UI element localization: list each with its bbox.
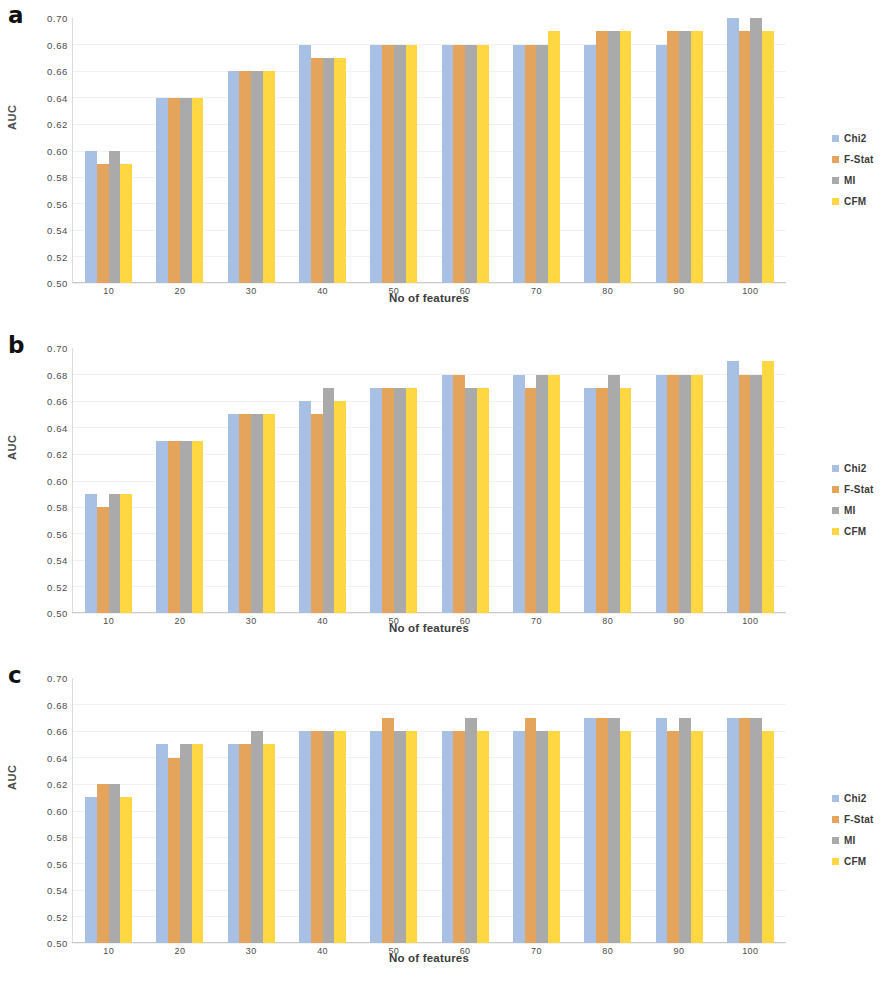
bar-mi — [180, 744, 192, 943]
y-tick-label: 0.64 — [26, 752, 68, 763]
y-tick-label: 0.66 — [26, 396, 68, 407]
bar-cfm — [334, 731, 346, 943]
bar-f-stat — [667, 731, 679, 943]
plot-area-b: AUC 0.700.680.660.640.620.600.580.560.54… — [0, 330, 896, 660]
bar-group — [572, 18, 643, 283]
bar-group — [216, 348, 287, 613]
y-tick-label: 0.70 — [26, 343, 68, 354]
bar-cluster — [584, 348, 631, 613]
bar-cluster — [513, 348, 560, 613]
bar-cluster — [727, 348, 774, 613]
y-tick-labels-b: 0.700.680.660.640.620.600.580.560.540.52… — [26, 348, 68, 613]
bar-chi2 — [584, 718, 596, 943]
legend-a: Chi2F-StatMICFM — [832, 128, 896, 212]
bar-cluster — [299, 678, 346, 943]
bar-chi2 — [228, 71, 240, 283]
legend-item: Chi2 — [832, 128, 896, 149]
bar-cluster — [584, 678, 631, 943]
bar-cfm — [548, 375, 560, 614]
y-tick-label: 0.62 — [26, 779, 68, 790]
y-tick-label: 0.56 — [26, 858, 68, 869]
bar-cluster — [156, 348, 203, 613]
legend-swatch-icon — [832, 135, 839, 142]
chart-panel-c: c AUC 0.700.680.660.640.620.600.580.560.… — [0, 660, 896, 1002]
x-axis-title-c: No of features — [72, 952, 786, 964]
y-tick-label: 0.68 — [26, 39, 68, 50]
bar-mi — [394, 388, 406, 613]
bar-chi2 — [513, 375, 525, 614]
legend-label: Chi2 — [844, 133, 866, 144]
bar-chi2 — [228, 744, 240, 943]
legend-item: MI — [832, 170, 896, 191]
legend-swatch-icon — [832, 816, 839, 823]
bar-group — [572, 678, 643, 943]
gridline — [72, 283, 786, 284]
bar-cluster — [513, 18, 560, 283]
legend-item: Chi2 — [832, 458, 896, 479]
legend-swatch-icon — [832, 507, 839, 514]
bar-f-stat — [596, 718, 608, 943]
bar-cluster — [85, 678, 132, 943]
bar-cfm — [477, 45, 489, 284]
legend-swatch-icon — [832, 465, 839, 472]
legend-swatch-icon — [832, 156, 839, 163]
bar-cluster — [156, 18, 203, 283]
legend-item: CFM — [832, 521, 896, 542]
legend-item: MI — [832, 500, 896, 521]
bar-mi — [394, 45, 406, 284]
y-tick-label: 0.68 — [26, 699, 68, 710]
y-axis-title-c: AUC — [6, 765, 18, 790]
y-tick-label: 0.54 — [26, 885, 68, 896]
y-tick-label: 0.64 — [26, 422, 68, 433]
bar-mi — [251, 71, 263, 283]
bar-f-stat — [239, 71, 251, 283]
bar-chi2 — [442, 45, 454, 284]
bar-cluster — [727, 678, 774, 943]
bar-group — [216, 678, 287, 943]
y-tick-label: 0.50 — [26, 938, 68, 949]
y-tick-label: 0.52 — [26, 581, 68, 592]
bar-cfm — [406, 388, 418, 613]
bar-f-stat — [311, 414, 323, 613]
bar-group — [429, 678, 500, 943]
bar-group — [501, 348, 572, 613]
bar-group — [429, 18, 500, 283]
bar-mi — [536, 45, 548, 284]
y-tick-label: 0.54 — [26, 555, 68, 566]
y-tick-label: 0.64 — [26, 92, 68, 103]
bar-chi2 — [370, 731, 382, 943]
chart-panel-b: b AUC 0.700.680.660.640.620.600.580.560.… — [0, 330, 896, 660]
bar-mi — [323, 388, 335, 613]
bar-mi — [750, 18, 762, 283]
bar-cfm — [477, 388, 489, 613]
bar-chi2 — [513, 731, 525, 943]
y-axis-title-a: AUC — [6, 105, 18, 130]
bar-f-stat — [596, 388, 608, 613]
bar-cluster — [584, 18, 631, 283]
bar-f-stat — [97, 164, 109, 283]
bar-mi — [251, 414, 263, 613]
bar-cfm — [762, 731, 774, 943]
legend-label: CFM — [844, 196, 866, 207]
bar-chi2 — [85, 797, 97, 943]
bar-mi — [180, 98, 192, 284]
bar-cluster — [156, 678, 203, 943]
bar-cluster — [370, 348, 417, 613]
bar-cluster — [370, 678, 417, 943]
y-tick-label: 0.68 — [26, 369, 68, 380]
bar-f-stat — [168, 758, 180, 944]
bar-chi2 — [656, 375, 668, 614]
bar-f-stat — [382, 718, 394, 943]
y-tick-labels-a: 0.700.680.660.640.620.600.580.560.540.52… — [26, 18, 68, 283]
bar-cluster — [299, 18, 346, 283]
bar-chi2 — [727, 18, 739, 283]
bar-cluster — [299, 348, 346, 613]
x-axis-title-b: No of features — [72, 622, 786, 634]
bar-group — [501, 678, 572, 943]
bar-cluster — [85, 348, 132, 613]
bar-f-stat — [667, 31, 679, 283]
y-tick-label: 0.50 — [26, 278, 68, 289]
legend-swatch-icon — [832, 795, 839, 802]
bar-group — [358, 348, 429, 613]
bar-mi — [465, 45, 477, 284]
